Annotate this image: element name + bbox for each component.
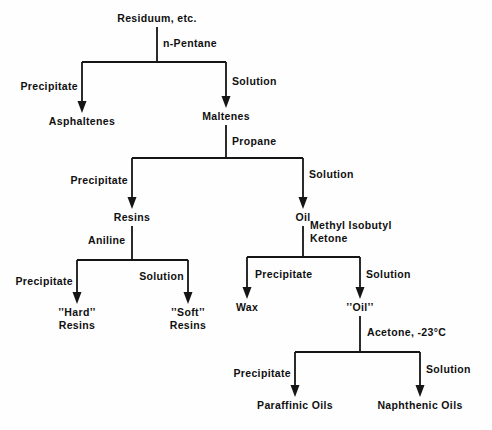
branch-label-precipitate-aniline: Precipitate bbox=[15, 275, 73, 287]
branch-label-precipitate-propane: Precipitate bbox=[70, 174, 128, 186]
branch-label-solution-aniline: Solution bbox=[139, 270, 184, 282]
arrow-oil-quoted-icon bbox=[356, 287, 365, 299]
branch-label-precipitate-pentane: Precipitate bbox=[20, 80, 78, 92]
node-maltenes: Maltenes bbox=[202, 110, 250, 122]
node-hard-resins-line2: Resins bbox=[59, 319, 96, 331]
flowchart-canvas: Residuum, etc. Asphaltenes Maltenes Resi… bbox=[0, 0, 492, 430]
edge-group-propane bbox=[128, 125, 308, 209]
reagent-n-pentane: n-Pentane bbox=[163, 37, 217, 49]
reagent-mik-line1: Methyl Isobutyl bbox=[310, 219, 392, 231]
node-wax: Wax bbox=[236, 301, 258, 313]
arrow-naphthenic-icon bbox=[416, 385, 425, 397]
arrow-asphaltenes-icon bbox=[78, 101, 87, 113]
node-naphthenic-oils: Naphthenic Oils bbox=[377, 399, 462, 411]
branch-label-precipitate-acetone: Precipitate bbox=[233, 367, 291, 379]
node-soft-resins-line2: Resins bbox=[170, 319, 207, 331]
arrow-maltenes-icon bbox=[222, 96, 231, 108]
reagent-acetone: Acetone, -23°C bbox=[367, 326, 446, 338]
reagent-aniline: Aniline bbox=[88, 234, 125, 246]
node-hard-resins-line1: ’’Hard’’ bbox=[58, 306, 96, 318]
arrow-oil-icon bbox=[299, 197, 308, 209]
flowchart-root: Residuum, etc. Asphaltenes Maltenes Resi… bbox=[0, 0, 492, 430]
branch-label-solution-pentane: Solution bbox=[232, 75, 277, 87]
arrow-soft-resins-icon bbox=[184, 292, 193, 304]
branch-label-solution-acetone: Solution bbox=[426, 363, 471, 375]
arrow-resins-icon bbox=[128, 197, 137, 209]
arrow-paraffinic-icon bbox=[291, 385, 300, 397]
branch-label-precipitate-mik: Precipitate bbox=[255, 268, 313, 280]
node-oil: Oil bbox=[295, 211, 310, 223]
node-soft-resins-line1: ’’Soft’’ bbox=[171, 306, 205, 318]
node-paraffinic-oils: Paraffinic Oils bbox=[257, 399, 333, 411]
node-asphaltenes: Asphaltenes bbox=[49, 115, 115, 127]
arrow-hard-resins-icon bbox=[73, 292, 82, 304]
node-oil-quoted: ’’Oil’’ bbox=[346, 301, 373, 313]
branch-label-solution-propane: Solution bbox=[309, 168, 354, 180]
node-resins: Resins bbox=[114, 211, 151, 223]
branch-label-solution-mik: Solution bbox=[366, 268, 411, 280]
node-residuum: Residuum, etc. bbox=[117, 12, 197, 24]
reagent-mik-line2: Ketone bbox=[310, 232, 348, 244]
reagent-propane: Propane bbox=[232, 135, 276, 147]
arrow-wax-icon bbox=[243, 287, 252, 299]
